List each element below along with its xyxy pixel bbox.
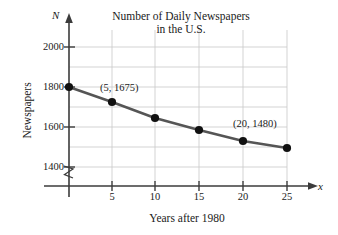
chart-title-line-1: Number of Daily Newspapers	[24, 10, 338, 23]
chart-title-line-2: in the U.S.	[24, 23, 338, 36]
x-axis-title: Years after 1980	[0, 212, 338, 225]
y-tick-label-1400: 1400	[0, 161, 64, 172]
x-tick-label-25: 25	[272, 191, 302, 202]
data-point-annotation: (20, 1480)	[233, 118, 277, 129]
data-point	[195, 126, 203, 134]
y-axis-title: Newspapers	[21, 62, 34, 158]
y-tick-label-wrap: 1400	[0, 161, 64, 173]
y-tick-label-wrap: 1600	[0, 121, 64, 133]
data-point	[108, 98, 116, 106]
gridlines-vertical	[112, 30, 287, 182]
data-point	[239, 137, 247, 145]
y-tick-label-wrap: 1800	[0, 81, 64, 93]
chart-title: Number of Daily Newspapers in the U.S.	[0, 10, 338, 36]
y-axis-symbol-label: N	[52, 9, 59, 21]
x-tick-label-5: 5	[97, 191, 127, 202]
y-tick-label-2000: 2000	[0, 41, 64, 52]
y-tick-label-1800: 1800	[0, 81, 64, 92]
chart-figure: Number of Daily Newspapers in the U.S. N…	[0, 0, 338, 235]
y-tick-label-1600: 1600	[0, 121, 64, 132]
gridlines-horizontal	[69, 47, 287, 167]
data-point-annotation: (5, 1675)	[100, 82, 139, 93]
y-tick-label-wrap: 2000	[0, 41, 64, 53]
x-tick-label-15: 15	[184, 191, 214, 202]
data-point	[151, 114, 159, 122]
x-tick-label-20: 20	[228, 191, 258, 202]
data-point	[283, 144, 291, 152]
x-axis	[44, 182, 318, 190]
x-axis-symbol-label: x	[318, 180, 323, 192]
data-point	[65, 83, 73, 91]
axis-break-icon	[64, 166, 73, 178]
x-tick-label-10: 10	[140, 191, 170, 202]
